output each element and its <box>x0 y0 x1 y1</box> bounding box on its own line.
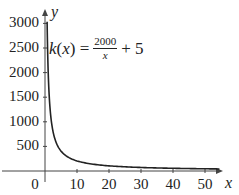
function-label: k(x) = 2000 x + 5 <box>49 36 144 61</box>
function-rhs: + 5 <box>121 39 143 59</box>
y-tick-label: 2500 <box>0 40 39 55</box>
x-tick-label: 40 <box>161 177 185 192</box>
y-axis-label: y <box>51 4 58 20</box>
x-tick-label: 20 <box>97 177 121 192</box>
fraction-numerator: 2000 <box>93 36 117 49</box>
y-tick-label: 3000 <box>0 15 39 30</box>
x-tick-label: 50 <box>193 177 217 192</box>
x-axis-label: x <box>225 175 232 191</box>
fraction: 2000 x <box>93 36 117 61</box>
x-tick-label: 10 <box>65 177 89 192</box>
y-tick-label: 1500 <box>0 89 39 104</box>
y-tick-label: 500 <box>0 138 39 153</box>
function-lhs: k(x) = <box>49 39 89 59</box>
x-tick-label: 30 <box>129 177 153 192</box>
y-axis-arrow-icon <box>42 9 48 16</box>
x-tick-label: 0 <box>23 177 47 192</box>
fraction-denominator: x <box>103 49 108 61</box>
y-tick-label: 2000 <box>0 65 39 80</box>
y-tick-label: 1000 <box>0 114 39 129</box>
